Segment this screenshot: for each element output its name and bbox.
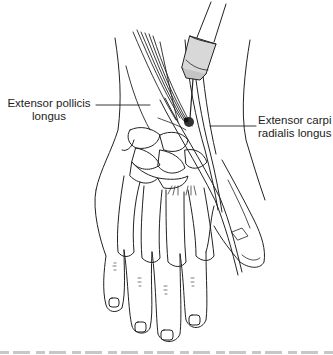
metacarpal-bones — [117, 176, 214, 267]
tendon-fibers — [168, 186, 196, 195]
label-extensor-carpi-radialis-longus: Extensor carpi radialis longus — [258, 114, 333, 140]
label-line: Extensor pollicis — [3, 97, 95, 110]
cut-off-caption — [0, 348, 333, 355]
label-extensor-pollicis-longus: Extensor pollicis longus — [3, 97, 95, 123]
label-line: radialis longus — [258, 127, 333, 140]
syringe-icon — [182, 2, 226, 118]
extensor-tendons-bundle — [126, 30, 192, 130]
carpal-bones — [122, 118, 207, 189]
hand-anatomy-illustration — [0, 0, 333, 355]
hand-outline — [95, 190, 214, 342]
label-line: Extensor carpi — [258, 114, 333, 127]
label-line: longus — [3, 110, 95, 123]
forearm-outline — [96, 38, 265, 200]
